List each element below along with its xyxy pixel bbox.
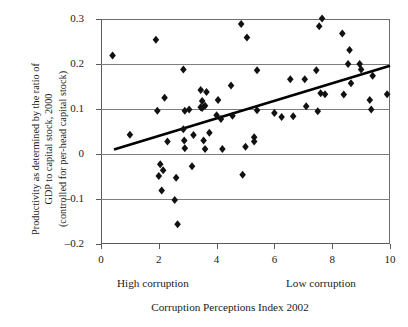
data-point bbox=[340, 91, 347, 99]
data-point bbox=[271, 109, 278, 117]
data-point bbox=[109, 51, 116, 59]
data-point bbox=[189, 162, 196, 170]
x-tick-mark-0 bbox=[101, 244, 102, 249]
data-point bbox=[180, 65, 187, 73]
data-point bbox=[190, 131, 197, 139]
data-point bbox=[219, 145, 226, 153]
data-layer bbox=[101, 19, 390, 244]
data-point bbox=[127, 131, 134, 139]
data-point bbox=[206, 129, 213, 137]
data-point bbox=[156, 172, 163, 180]
data-point bbox=[316, 22, 323, 30]
data-point bbox=[242, 143, 249, 151]
data-point bbox=[228, 82, 235, 90]
data-point bbox=[181, 137, 188, 145]
x-tick-mark-4 bbox=[332, 244, 333, 249]
data-point bbox=[251, 137, 258, 145]
x-tick-mark-2 bbox=[217, 244, 218, 249]
y-tick-mark-1 bbox=[96, 64, 101, 65]
data-point bbox=[322, 90, 329, 98]
data-point bbox=[202, 145, 209, 153]
data-point bbox=[254, 66, 261, 74]
y-tick-label-0: 0.3 bbox=[70, 12, 84, 24]
data-point bbox=[182, 144, 189, 152]
x-tick-label-1: 2 bbox=[139, 253, 179, 265]
y-axis-title: Productivity as determined by the ratio … bbox=[22, 27, 76, 272]
annotation-low-corruption: Low corruption bbox=[286, 277, 356, 289]
data-point bbox=[215, 96, 222, 104]
x-tick-mark-5 bbox=[390, 244, 391, 249]
y-tick-mark-2 bbox=[96, 109, 101, 110]
data-point bbox=[197, 86, 204, 94]
y-axis-title-line-2: GDP to capital stock, 2000 bbox=[42, 94, 55, 205]
data-point bbox=[346, 46, 353, 54]
x-axis-title: Corruption Perceptions Index 2002 bbox=[0, 301, 408, 313]
data-point bbox=[345, 60, 352, 68]
data-point bbox=[303, 102, 310, 110]
data-point bbox=[384, 90, 391, 98]
y-tick-mark-0 bbox=[96, 19, 101, 20]
y-tick-label-4: –0.1 bbox=[65, 192, 84, 204]
x-tick-label-3: 6 bbox=[254, 253, 294, 265]
x-tick-mark-3 bbox=[274, 244, 275, 249]
data-point bbox=[368, 105, 375, 113]
y-tick-label-3: 0 bbox=[79, 147, 85, 159]
data-points bbox=[109, 15, 390, 229]
data-point bbox=[339, 29, 346, 37]
data-point bbox=[203, 88, 210, 96]
y-tick-mark-3 bbox=[96, 154, 101, 155]
data-point bbox=[153, 36, 160, 44]
y-tick-label-1: 0.2 bbox=[70, 57, 84, 69]
data-point bbox=[287, 75, 294, 83]
data-point bbox=[161, 94, 168, 102]
data-point bbox=[239, 171, 246, 179]
plot-area: 0.30.20.10–0.1–0.2 0246810 bbox=[101, 19, 390, 244]
data-point bbox=[164, 137, 171, 145]
y-tick-mark-4 bbox=[96, 199, 101, 200]
x-tick-label-5: 10 bbox=[370, 253, 408, 265]
data-point bbox=[313, 66, 320, 74]
data-point bbox=[200, 137, 207, 145]
data-point bbox=[348, 79, 355, 87]
x-tick-label-2: 4 bbox=[197, 253, 237, 265]
data-point bbox=[154, 107, 161, 115]
data-point bbox=[278, 113, 285, 121]
data-point bbox=[174, 220, 181, 228]
data-point bbox=[301, 75, 308, 83]
scatter-plot-figure: Productivity as determined by the ratio … bbox=[0, 0, 408, 327]
data-point bbox=[319, 15, 326, 23]
data-point bbox=[366, 96, 373, 104]
data-point bbox=[171, 196, 178, 204]
data-point bbox=[238, 20, 245, 28]
annotation-high-corruption: High corruption bbox=[117, 277, 189, 289]
y-tick-label-2: 0.1 bbox=[70, 102, 84, 114]
data-point bbox=[244, 33, 251, 41]
x-tick-label-4: 8 bbox=[312, 253, 352, 265]
data-point bbox=[314, 107, 321, 115]
data-point bbox=[158, 186, 165, 194]
y-tick-label-5: –0.2 bbox=[65, 237, 84, 249]
data-point bbox=[173, 174, 180, 182]
x-tick-mark-1 bbox=[159, 244, 160, 249]
x-tick-label-0: 0 bbox=[81, 253, 121, 265]
data-point bbox=[290, 112, 297, 120]
y-axis-title-line-1: Productivity as determined by the ratio … bbox=[28, 63, 41, 235]
